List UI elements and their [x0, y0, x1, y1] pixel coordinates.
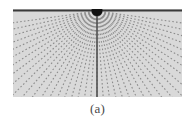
panel-caption: (a): [0, 101, 195, 117]
figure-panel-a: (a): [0, 0, 195, 125]
ray-fan-group: [13, 9, 182, 97]
ray-field-plot: [13, 9, 182, 97]
ray-diagram-svg: [13, 9, 182, 97]
